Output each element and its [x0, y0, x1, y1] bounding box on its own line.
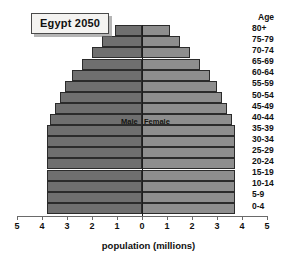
x-tick-mark — [17, 216, 18, 220]
x-tick-label: 1 — [159, 221, 175, 231]
age-tick-label: 30-34 — [249, 134, 295, 145]
age-tick-label: 55-59 — [249, 78, 295, 89]
female-bar — [142, 103, 227, 114]
female-bar — [142, 136, 235, 147]
x-tick-mark — [92, 216, 93, 220]
female-bar — [142, 147, 235, 158]
x-tick-label: 2 — [84, 221, 100, 231]
female-bar — [142, 203, 235, 214]
male-bar — [47, 192, 142, 203]
female-series-label: Female — [144, 117, 170, 126]
male-bar — [47, 125, 142, 136]
age-tick-label: 65-69 — [249, 56, 295, 67]
male-bar — [47, 158, 142, 169]
male-bar — [72, 70, 142, 81]
male-bar — [47, 170, 142, 181]
x-tick-label: 1 — [109, 221, 125, 231]
age-tick-label: 45-49 — [249, 101, 295, 112]
female-bar — [142, 192, 235, 203]
population-pyramid-chart: Egypt 2050 Male Female Age 80+75-7970-74… — [0, 0, 297, 262]
male-bar — [47, 203, 142, 214]
male-bar — [92, 47, 142, 58]
male-bar — [60, 92, 143, 103]
age-tick-label: 35-39 — [249, 123, 295, 134]
age-tick-label: 25-29 — [249, 145, 295, 156]
female-bar — [142, 181, 235, 192]
age-tick-label: 80+ — [249, 23, 295, 34]
x-tick-label: 4 — [34, 221, 50, 231]
age-axis: Age 80+75-7970-7465-6960-6455-5950-5445-… — [249, 12, 295, 212]
x-tick-label: 2 — [184, 221, 200, 231]
female-bar — [142, 92, 222, 103]
female-bar — [142, 25, 170, 36]
female-bar — [142, 81, 217, 92]
x-tick-label: 3 — [59, 221, 75, 231]
age-tick-labels: 80+75-7970-7465-6960-6455-5950-5445-4940… — [249, 23, 295, 212]
male-bar — [55, 103, 143, 114]
x-tick-mark — [142, 216, 143, 220]
male-bar — [47, 147, 142, 158]
male-bar — [47, 136, 142, 147]
x-tick-label: 4 — [234, 221, 250, 231]
female-bar — [142, 70, 210, 81]
age-tick-label: 20-24 — [249, 156, 295, 167]
age-tick-label: 0-4 — [249, 201, 295, 212]
x-tick-label: 5 — [259, 221, 275, 231]
age-tick-label: 50-54 — [249, 90, 295, 101]
male-bar — [115, 25, 143, 36]
male-series-label: Male — [121, 117, 138, 126]
x-tick-mark — [192, 216, 193, 220]
female-bar — [142, 125, 235, 136]
age-tick-label: 10-14 — [249, 178, 295, 189]
x-axis-title: population (millions) — [0, 240, 297, 251]
male-bar — [102, 36, 142, 47]
male-bar — [65, 81, 143, 92]
x-tick-label: 0 — [134, 221, 150, 231]
x-tick-mark — [42, 216, 43, 220]
female-bar — [142, 59, 200, 70]
x-tick-label: 5 — [9, 221, 25, 231]
female-bar — [142, 170, 235, 181]
age-tick-label: 75-79 — [249, 34, 295, 45]
x-tick-mark — [67, 216, 68, 220]
female-bar — [142, 47, 190, 58]
female-bar — [142, 36, 180, 47]
chart-title: Egypt 2050 — [31, 13, 109, 34]
x-tick-mark — [267, 216, 268, 220]
x-tick-mark — [217, 216, 218, 220]
x-tick-mark — [117, 216, 118, 220]
age-tick-label: 70-74 — [249, 45, 295, 56]
age-tick-label: 60-64 — [249, 67, 295, 78]
age-tick-label: 15-19 — [249, 167, 295, 178]
age-axis-title: Age — [249, 12, 295, 23]
x-tick-mark — [242, 216, 243, 220]
female-bar — [142, 158, 235, 169]
x-tick-label: 3 — [209, 221, 225, 231]
x-tick-mark — [167, 216, 168, 220]
age-tick-label: 40-44 — [249, 112, 295, 123]
center-axis-line — [142, 25, 143, 216]
male-bar — [82, 59, 142, 70]
male-bar — [47, 181, 142, 192]
age-tick-label: 5-9 — [249, 189, 295, 200]
